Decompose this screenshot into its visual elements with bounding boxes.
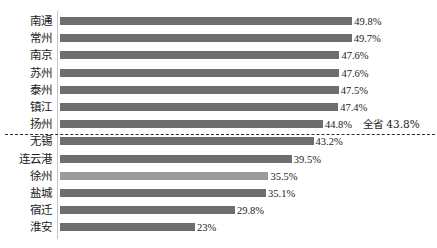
bar-value-label: 39.5% [294,151,321,168]
bar [60,34,352,42]
category-label: 连云港 [0,151,52,168]
bar [60,120,323,128]
bar-row: 苏州47.6% [0,65,437,82]
bar [60,206,235,214]
bar-row: 淮安23% [0,219,437,236]
bar-value-label: 29.8% [237,202,264,219]
bar [60,69,339,77]
bar [60,223,195,231]
bar [60,86,339,94]
category-label: 泰州 [0,82,52,99]
bar-value-label: 23% [197,219,216,236]
bar [60,189,266,197]
category-label: 镇江 [0,99,52,116]
bar-value-label: 47.5% [341,82,368,99]
bar-value-label: 35.5% [270,168,297,185]
bar-row: 盐城35.1% [0,185,437,202]
bar-value-label: 47.6% [341,47,368,64]
category-label: 扬州 [0,116,52,133]
category-label: 无锡 [0,133,52,150]
category-label: 徐州 [0,168,52,185]
bar-row: 徐州35.5% [0,168,437,185]
category-label: 南通 [0,13,52,30]
province-average-annotation: 全省 43.8% [363,116,420,133]
bar-value-label: 35.1% [268,185,295,202]
bar-value-label: 49.8% [354,13,381,30]
bar [60,172,268,180]
bar [60,137,314,145]
bar-row: 镇江47.4% [0,99,437,116]
bar-rows: 南通49.8%常州49.7%南京47.6%苏州47.6%泰州47.5%镇江47.… [0,0,437,248]
bar-value-label: 49.7% [354,30,381,47]
bar-row: 宿迁29.8% [0,202,437,219]
bar-value-label: 47.4% [340,99,367,116]
bar-row: 南京47.6% [0,47,437,64]
category-label: 苏州 [0,65,52,82]
bar-chart: 南通49.8%常州49.7%南京47.6%苏州47.6%泰州47.5%镇江47.… [0,0,437,248]
bar-value-label: 47.6% [341,65,368,82]
bar-row: 泰州47.5% [0,82,437,99]
bar [60,17,352,25]
category-label: 常州 [0,30,52,47]
category-label: 宿迁 [0,202,52,219]
bar [60,103,338,111]
bar-row: 扬州44.8%全省 43.8% [0,116,437,133]
bar [60,51,339,59]
bar-value-label: 43.2% [316,133,343,150]
category-label: 淮安 [0,219,52,236]
category-label: 盐城 [0,185,52,202]
category-label: 南京 [0,47,52,64]
bar-row: 常州49.7% [0,30,437,47]
bar-row: 连云港39.5% [0,151,437,168]
bar [60,155,292,163]
bar-row: 南通49.8% [0,13,437,30]
bar-value-label: 44.8% [325,116,352,133]
bar-row: 无锡43.2% [0,133,437,150]
